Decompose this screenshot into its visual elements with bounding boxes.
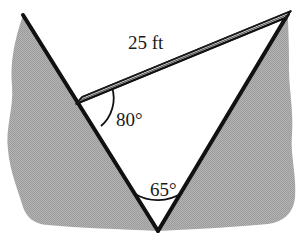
plank-length-label: 25 ft [128,32,164,53]
geometry-figure: 25 ft 80° 65° [0,0,305,246]
figure-canvas: 25 ft 80° 65° [0,0,305,246]
angle-upper-label: 80° [116,109,143,130]
angle-vertex-label: 65° [150,179,177,200]
